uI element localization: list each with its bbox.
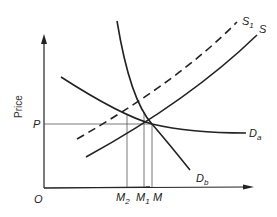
axes bbox=[41, 34, 254, 190]
s-label: S bbox=[259, 23, 267, 35]
labels: Price P O M2 M1 M S S1 Da Db bbox=[13, 15, 267, 206]
m2-label: M2 bbox=[116, 191, 130, 206]
supply-demand-diagram: Price P O M2 M1 M S S1 Da Db bbox=[0, 0, 277, 217]
price-label: P bbox=[33, 118, 41, 130]
y-axis-arrow-icon bbox=[41, 34, 47, 44]
curve-db bbox=[117, 21, 190, 170]
m1-label: M1 bbox=[136, 191, 150, 206]
da-label: Da bbox=[249, 127, 262, 142]
db-label: Db bbox=[196, 172, 209, 187]
s1-label: S1 bbox=[242, 15, 254, 30]
curves bbox=[61, 21, 257, 170]
m-label: M bbox=[153, 191, 163, 203]
curve-s1 bbox=[77, 22, 237, 139]
y-axis-label: Price bbox=[13, 95, 24, 118]
curve-s bbox=[86, 35, 257, 157]
origin-label: O bbox=[34, 193, 43, 205]
